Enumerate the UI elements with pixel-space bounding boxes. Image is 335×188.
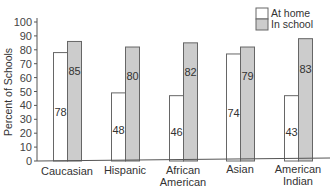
bars: 78854880468274794383 xyxy=(54,39,313,161)
bar-value-label: 79 xyxy=(241,70,253,82)
x-category-label: American xyxy=(160,176,206,188)
x-category-label: Indian xyxy=(283,175,313,187)
x-category-label: Caucasian xyxy=(41,165,93,177)
bar-value-label: 74 xyxy=(227,107,239,119)
bar-in-school xyxy=(184,43,198,161)
bar-in-school xyxy=(241,47,255,161)
y-tick-label: 40 xyxy=(20,99,32,111)
bar-value-label: 48 xyxy=(112,124,124,136)
bar-value-label: 83 xyxy=(299,63,311,75)
legend-swatch-in-school xyxy=(256,19,268,30)
y-tick-label: 80 xyxy=(20,44,32,56)
bar-group: 7885 xyxy=(54,41,82,161)
bar-in-school xyxy=(68,41,82,161)
bar-value-label: 80 xyxy=(126,70,138,82)
x-axis: CaucasianHispanicAfricanAmericanAsianAme… xyxy=(37,158,330,188)
bar-in-school xyxy=(299,39,313,161)
bar-value-label: 85 xyxy=(68,65,80,77)
bar-chart: 0102030405060708090100 78854880468274794… xyxy=(0,0,335,188)
y-tick-label: 10 xyxy=(20,141,32,153)
bar-value-label: 82 xyxy=(184,66,196,78)
y-tick-label: 30 xyxy=(20,113,32,125)
bar-value-label: 43 xyxy=(285,126,297,138)
y-tick-label: 100 xyxy=(14,16,32,28)
bar-value-label: 46 xyxy=(170,126,182,138)
legend-label: In school xyxy=(271,18,313,30)
x-category-label: Hispanic xyxy=(104,164,147,176)
y-tick-label: 60 xyxy=(20,72,32,84)
bar-group: 4682 xyxy=(170,43,198,161)
legend: At homeIn school xyxy=(256,7,313,30)
bar-group: 4383 xyxy=(285,39,313,161)
y-tick-label: 50 xyxy=(20,86,32,98)
legend-swatch-at-home xyxy=(256,8,268,19)
y-tick-label: 0 xyxy=(26,155,32,167)
x-category-label: African xyxy=(166,164,200,176)
bar-value-label: 78 xyxy=(54,106,66,118)
y-axis-label: Percent of Schools xyxy=(2,48,14,136)
y-axis: 0102030405060708090100 xyxy=(14,16,37,167)
bar-group: 4880 xyxy=(112,47,140,161)
bar-in-school xyxy=(126,47,140,161)
y-tick-label: 20 xyxy=(20,127,32,139)
y-tick-label: 90 xyxy=(20,30,32,42)
y-tick-label: 70 xyxy=(20,58,32,70)
x-category-label: Asian xyxy=(226,163,254,175)
x-category-label: American xyxy=(275,163,321,175)
bar-group: 7479 xyxy=(227,47,255,161)
